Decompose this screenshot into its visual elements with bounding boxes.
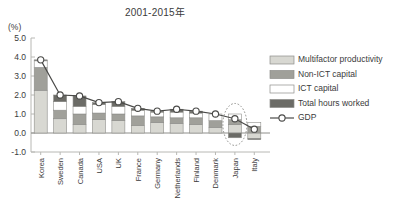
- bar-stack[interactable]: [34, 60, 47, 133]
- y-tick-label: 2.0: [14, 90, 26, 100]
- bar-segment[interactable]: [248, 133, 261, 139]
- bar-stack[interactable]: [54, 95, 67, 133]
- bar-segment[interactable]: [112, 114, 125, 121]
- x-axis-label: France: [134, 158, 143, 181]
- bar-segment[interactable]: [112, 121, 125, 133]
- y-tick-label: -1.0: [11, 147, 26, 157]
- bar-segment[interactable]: [73, 106, 86, 114]
- gdp-marker[interactable]: [96, 100, 102, 106]
- bar-stack[interactable]: [112, 102, 125, 133]
- x-axis-label: Canada: [76, 157, 85, 184]
- gdp-marker[interactable]: [193, 108, 199, 114]
- legend-swatch: [270, 100, 294, 108]
- bar-segment[interactable]: [170, 124, 183, 134]
- legend-label: Non-ICT capital: [298, 69, 357, 79]
- legend-swatch: [270, 56, 294, 64]
- bar-segment[interactable]: [190, 118, 203, 125]
- bar-segment[interactable]: [92, 113, 105, 120]
- legend-label: Total hours worked: [298, 98, 370, 108]
- bar-segment[interactable]: [228, 133, 241, 138]
- y-tick-label: 0.0: [14, 128, 26, 138]
- chart-svg: 5.04.03.02.01.00.0-1.0KoreaSwedenCanadaU…: [0, 0, 407, 223]
- gdp-marker[interactable]: [38, 57, 44, 63]
- legend-item[interactable]: Multifactor productivity: [270, 54, 383, 64]
- bar-segment[interactable]: [170, 112, 183, 118]
- bar-segment[interactable]: [73, 124, 86, 133]
- bar-segment[interactable]: [151, 123, 164, 133]
- gdp-marker[interactable]: [251, 126, 257, 132]
- bar-segment[interactable]: [209, 121, 222, 128]
- x-axis-label: Netherlands: [173, 158, 182, 199]
- bar-segment[interactable]: [54, 102, 67, 111]
- legend-item[interactable]: Non-ICT capital: [270, 69, 357, 79]
- gdp-marker[interactable]: [135, 105, 141, 111]
- gdp-marker[interactable]: [232, 116, 238, 122]
- y-tick-label: 5.0: [14, 33, 26, 43]
- x-axis-label: Japan: [231, 158, 240, 178]
- bar-stack[interactable]: [92, 103, 105, 133]
- y-tick-label: 4.0: [14, 52, 26, 62]
- gdp-marker[interactable]: [212, 111, 218, 117]
- legend-gdp-marker: [279, 115, 285, 121]
- x-axis-label: USA: [95, 158, 104, 173]
- legend-item[interactable]: GDP: [270, 112, 317, 122]
- legend-label: ICT capital: [298, 83, 339, 93]
- legend: Multifactor productivityNon-ICT capitalI…: [270, 54, 383, 122]
- gdp-marker[interactable]: [115, 99, 121, 105]
- legend-item[interactable]: Total hours worked: [270, 98, 370, 108]
- bar-segment[interactable]: [228, 124, 241, 133]
- bar-segment[interactable]: [190, 124, 203, 133]
- gdp-marker[interactable]: [154, 108, 160, 114]
- bar-segment[interactable]: [112, 106, 125, 114]
- bar-segment[interactable]: [131, 125, 144, 133]
- chart-container: 2001-2015年 (%) 5.04.03.02.01.00.0-1.0Kor…: [0, 0, 407, 223]
- bars-group: KoreaSwedenCanadaUSAUKFranceGermanyNethe…: [34, 60, 261, 199]
- legend-label: GDP: [298, 112, 317, 122]
- x-axis-label: Denmark: [211, 158, 220, 189]
- gdp-marker[interactable]: [174, 106, 180, 112]
- bar-segment[interactable]: [54, 110, 67, 119]
- y-tick-label: 3.0: [14, 71, 26, 81]
- bar-segment[interactable]: [248, 139, 261, 140]
- bar-segment[interactable]: [131, 116, 144, 126]
- bar-segment[interactable]: [151, 117, 164, 123]
- legend-swatch: [270, 71, 294, 79]
- bar-stack[interactable]: [131, 108, 144, 133]
- bar-segment[interactable]: [170, 118, 183, 124]
- bar-segment[interactable]: [34, 67, 47, 90]
- legend-swatch: [270, 85, 294, 93]
- legend-item[interactable]: ICT capital: [270, 83, 339, 93]
- gdp-marker[interactable]: [76, 93, 82, 99]
- x-axis-label: Sweden: [56, 158, 65, 185]
- legend-label: Multifactor productivity: [298, 54, 383, 64]
- y-tick-label: 1.0: [14, 109, 26, 119]
- x-axis-label: UK: [114, 158, 123, 168]
- bar-segment[interactable]: [34, 90, 47, 133]
- bar-segment[interactable]: [73, 114, 86, 124]
- gdp-marker[interactable]: [57, 92, 63, 98]
- x-axis-label: Korea: [37, 157, 46, 178]
- bar-segment[interactable]: [209, 127, 222, 133]
- gdp-line-group: [38, 57, 258, 133]
- x-axis-label: Finland: [192, 158, 201, 183]
- bar-stack[interactable]: [73, 96, 86, 133]
- bar-segment[interactable]: [54, 119, 67, 133]
- bar-segment[interactable]: [92, 120, 105, 133]
- x-axis-label: Germany: [153, 158, 162, 189]
- x-axis-label: Italy: [250, 158, 259, 172]
